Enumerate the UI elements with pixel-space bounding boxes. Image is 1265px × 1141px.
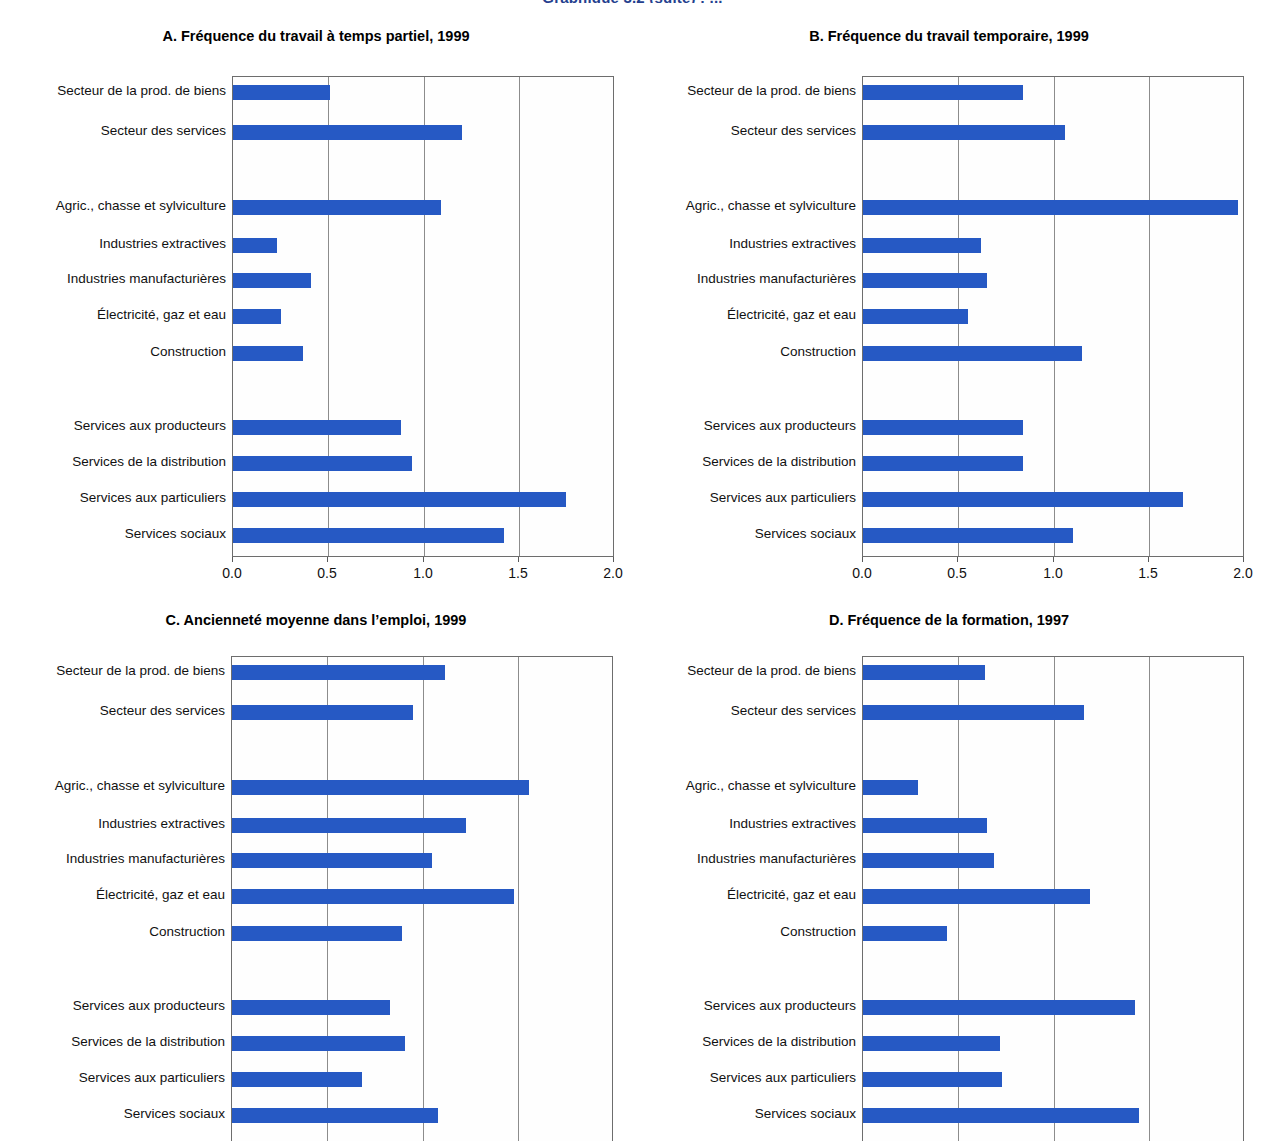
chart-panel-d: D. Fréquence de la formation, 1997 Secte… [633,612,1265,1141]
x-tick-label: 0.5 [297,565,357,581]
plot-area-c [231,656,613,1141]
category-label: Services aux particuliers [710,490,856,506]
gridline-1 [424,77,425,556]
category-label: Secteur de la prod. de biens [687,83,856,99]
x-tick-label: 1.0 [1023,565,1083,581]
category-label: Industries extractives [99,236,226,252]
x-tick-label: 0.0 [832,565,892,581]
category-label: Construction [149,924,225,940]
bar [863,492,1183,507]
bar [863,818,987,833]
bar [863,780,918,795]
category-label: Électricité, gaz et eau [96,887,225,903]
bar [863,85,1023,100]
category-label: Industries manufacturières [66,851,225,867]
chart-a: Secteur de la prod. de biensSecteur des … [0,28,632,597]
bar [233,420,401,435]
category-label: Secteur des services [731,123,856,139]
category-label: Agric., chasse et sylviculture [55,778,225,794]
bar [233,528,504,543]
x-tick-mark [327,557,328,562]
category-label: Services de la distribution [702,1034,856,1050]
chart-c: Secteur de la prod. de biensSecteur des … [0,612,632,1141]
plot-area-a [232,76,614,557]
x-tick-label: 1.0 [393,565,453,581]
bar [232,1072,362,1087]
bar [232,889,514,904]
x-tick-mark [518,557,519,562]
category-label: Industries extractives [98,816,225,832]
bar [232,818,466,833]
bar [232,1036,405,1051]
bar [863,889,1090,904]
chart-panel-a: A. Fréquence du travail à temps partiel,… [0,28,632,588]
category-label: Secteur de la prod. de biens [687,663,856,679]
x-tick-mark [862,557,863,562]
bar [233,309,281,324]
category-label: Services de la distribution [72,454,226,470]
x-tick-mark [613,557,614,562]
chart-b: Secteur de la prod. de biensSecteur des … [633,28,1265,597]
bar [233,125,462,140]
x-tick-mark [1243,557,1244,562]
plot-area-d [862,656,1244,1141]
category-label: Agric., chasse et sylviculture [686,198,856,214]
category-label: Industries extractives [729,816,856,832]
gridline-1-5 [518,657,519,1141]
category-label: Électricité, gaz et eau [727,307,856,323]
x-tick-label: 0.5 [927,565,987,581]
bar [232,926,402,941]
category-label: Secteur des services [100,703,225,719]
bar [863,309,968,324]
bar [233,492,566,507]
bar [233,273,311,288]
bar [863,853,994,868]
x-tick-mark [232,557,233,562]
bar [233,238,277,253]
bar [863,528,1073,543]
chart-d: Secteur de la prod. de biensSecteur des … [633,612,1265,1141]
bar [863,705,1084,720]
bar [233,346,303,361]
chart-panel-b: B. Fréquence du travail temporaire, 1999… [633,28,1265,588]
category-label: Services aux particuliers [710,1070,856,1086]
gridline-1-5 [519,77,520,556]
category-label: Services aux particuliers [80,490,226,506]
category-label: Industries manufacturières [697,851,856,867]
category-label: Industries extractives [729,236,856,252]
bar [232,705,413,720]
category-label: Services de la distribution [71,1034,225,1050]
category-label: Services de la distribution [702,454,856,470]
x-tick-label: 2.0 [1213,565,1265,581]
category-label: Construction [150,344,226,360]
plot-area-b [862,76,1244,557]
category-label: Secteur de la prod. de biens [57,83,226,99]
bar [232,780,529,795]
category-label: Services sociaux [755,1106,856,1122]
category-label: Construction [780,344,856,360]
bar [863,346,1082,361]
category-label: Industries manufacturières [67,271,226,287]
category-label: Services sociaux [124,1106,225,1122]
category-label: Agric., chasse et sylviculture [56,198,226,214]
bar [232,1000,390,1015]
gridline-1 [1054,77,1055,556]
category-label: Électricité, gaz et eau [97,307,226,323]
category-label: Services aux producteurs [704,418,856,434]
bar [233,456,412,471]
bar [863,456,1023,471]
gridline-1-5 [1149,77,1150,556]
bar [863,238,981,253]
chart-panel-c: C. Ancienneté moyenne dans l’emploi, 199… [0,612,632,1141]
bar [863,125,1065,140]
category-label: Services aux producteurs [73,998,225,1014]
bar [863,926,947,941]
category-label: Secteur de la prod. de biens [56,663,225,679]
figure-page: Graphique 3.2 (suite) : ... A. Fréquence… [0,0,1265,1141]
category-label: Services sociaux [125,526,226,542]
category-label: Électricité, gaz et eau [727,887,856,903]
x-tick-label: 1.5 [1118,565,1178,581]
bar [863,1108,1139,1123]
category-label: Construction [780,924,856,940]
x-tick-label: 0.0 [202,565,262,581]
